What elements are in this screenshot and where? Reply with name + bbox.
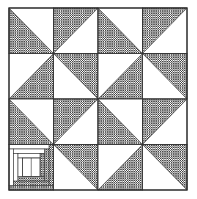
quilt-block-log-cabin	[9, 145, 54, 191]
quilt-block-upper-left	[54, 8, 99, 54]
quilt-grid	[9, 8, 187, 190]
quilt-block-lower-right	[98, 54, 143, 100]
quilt-block-lower-right	[98, 145, 143, 191]
quilt-block-lower-left	[98, 8, 143, 54]
quilt-block-lower-left	[9, 8, 54, 54]
quilt-block-lower-left	[98, 99, 143, 145]
quilt-block-upper-right	[54, 54, 99, 100]
quilt-pattern	[0, 0, 197, 199]
quilt-block-upper-left	[54, 99, 99, 145]
quilt-block-upper-left	[143, 99, 188, 145]
quilt-block-lower-left	[9, 99, 54, 145]
quilt-block-lower-right	[9, 54, 54, 100]
quilt-block-upper-right	[143, 54, 188, 100]
quilt-block-upper-right	[143, 145, 188, 191]
quilt-block-upper-right	[54, 145, 99, 191]
quilt-block-upper-left	[143, 8, 188, 54]
